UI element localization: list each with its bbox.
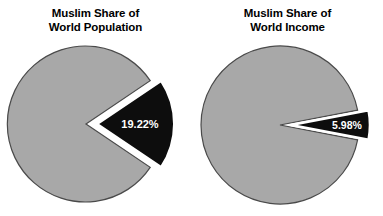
pie-slice-label-income: 5.98% xyxy=(332,119,362,131)
pie-slice-label-population: 19.22% xyxy=(121,118,159,130)
chart-panel-population: Muslim Share of World Population 19.22% xyxy=(0,0,191,216)
chart-panel-income: Muslim Share of World Income 5.98% xyxy=(192,0,383,216)
pie-chart-figure: Muslim Share of World Population 19.22% … xyxy=(0,0,383,216)
pie-chart-population: 19.22% xyxy=(0,0,191,216)
pie-chart-income: 5.98% xyxy=(192,0,383,216)
